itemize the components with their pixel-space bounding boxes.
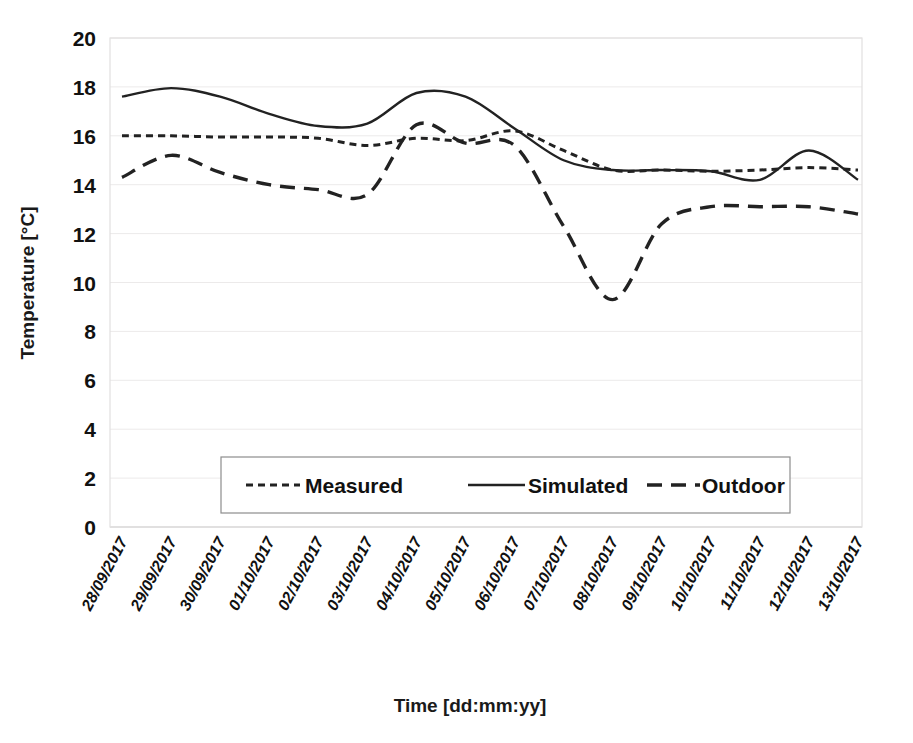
y-tick-12: 12: [73, 223, 96, 246]
x-tick-label: 01/10/2017: [225, 533, 278, 613]
x-tick-label: 04/10/2017: [372, 533, 425, 613]
chart-legend: MeasuredSimulatedOutdoor: [221, 457, 790, 513]
x-tick-label: 11/10/2017: [716, 533, 769, 612]
x-tick-label: 03/10/2017: [323, 533, 376, 613]
gridlines: [110, 38, 862, 527]
y-axis-tick-labels: 20181614121086420: [73, 27, 97, 539]
x-tick-label: 10/10/2017: [667, 533, 720, 613]
x-tick-label: 28/09/2017: [78, 533, 132, 614]
legend-label-measured: Measured: [305, 474, 403, 497]
series-line-simulated: [122, 88, 858, 180]
temperature-time-chart: 20181614121086420 Temperature [°C] Measu…: [0, 0, 913, 743]
y-tick-4: 4: [84, 418, 96, 441]
y-axis-title: Temperature [°C]: [17, 207, 38, 360]
legend-label-simulated: Simulated: [528, 474, 628, 497]
series-group: [122, 88, 858, 300]
x-axis-tick-labels: 28/09/201729/09/201730/09/201701/10/2017…: [78, 533, 868, 614]
x-tick-label: 02/10/2017: [274, 533, 327, 613]
y-tick-10: 10: [73, 272, 96, 295]
x-tick-label: 29/09/2017: [127, 533, 181, 614]
x-tick-label: 08/10/2017: [569, 533, 622, 613]
y-tick-20: 20: [73, 27, 96, 50]
legend-label-outdoor: Outdoor: [702, 474, 785, 497]
y-tick-14: 14: [73, 174, 97, 197]
x-tick-label: 07/10/2017: [520, 533, 573, 613]
x-tick-label: 13/10/2017: [814, 533, 867, 613]
y-tick-0: 0: [84, 516, 96, 539]
series-line-outdoor: [122, 123, 858, 300]
chart-canvas: 20181614121086420 Temperature [°C] Measu…: [0, 0, 913, 743]
x-tick-label: 09/10/2017: [618, 533, 671, 613]
x-tick-label: 06/10/2017: [471, 533, 524, 613]
y-tick-2: 2: [84, 467, 96, 490]
y-tick-16: 16: [73, 125, 96, 148]
y-tick-18: 18: [73, 76, 97, 99]
x-tick-label: 05/10/2017: [422, 533, 475, 613]
y-tick-8: 8: [84, 320, 96, 343]
x-tick-label: 12/10/2017: [765, 533, 818, 613]
x-tick-label: 30/09/2017: [176, 533, 229, 613]
series-line-measured: [122, 131, 858, 172]
y-tick-6: 6: [84, 369, 96, 392]
x-axis-title: Time [dd:mm:yy]: [394, 695, 547, 716]
